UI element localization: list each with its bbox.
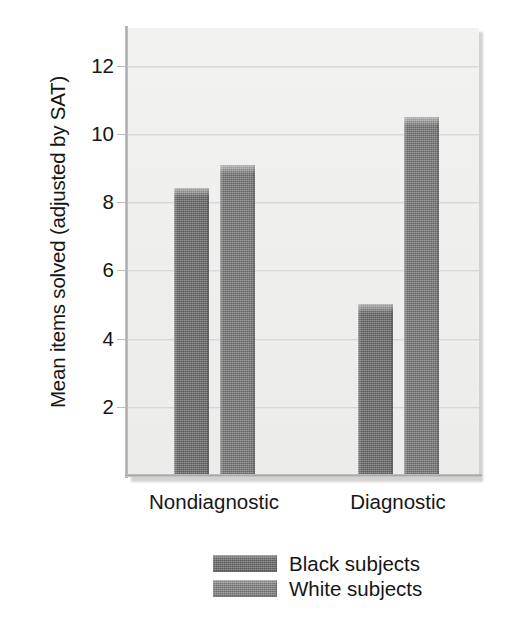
bar-edge-highlight xyxy=(174,188,177,475)
chart-legend: Black subjects White subjects xyxy=(213,551,422,601)
bar-edge-highlight xyxy=(358,304,361,475)
legend-label: Black subjects xyxy=(289,552,420,576)
bar-gloss xyxy=(220,165,255,174)
bar-edge-highlight xyxy=(404,117,407,475)
y-tick-label: 6 xyxy=(80,258,114,282)
legend-item: White subjects xyxy=(213,576,422,601)
bar xyxy=(220,165,255,476)
bar-chart-figure: Mean items solved (adjusted by SAT) 12 1… xyxy=(0,0,509,637)
y-tick-label: 4 xyxy=(80,327,114,351)
y-axis-tick-labels: 12 10 8 6 4 2 xyxy=(78,0,114,637)
x-axis-line xyxy=(125,474,482,477)
plot-area xyxy=(127,28,479,475)
bar-edge-highlight xyxy=(220,165,223,476)
plot-inner xyxy=(127,28,479,475)
legend-label: White subjects xyxy=(289,577,422,601)
y-tick-label: 2 xyxy=(80,395,114,419)
y-tick-label: 10 xyxy=(80,122,114,146)
bar-gloss xyxy=(358,304,393,313)
bar xyxy=(404,117,439,475)
y-axis-title: Mean items solved (adjusted by SAT) xyxy=(46,32,70,452)
bar-gloss xyxy=(174,188,209,197)
x-category-label: Nondiagnostic xyxy=(149,490,279,514)
y-tick-label: 8 xyxy=(80,190,114,214)
gridline xyxy=(127,66,479,67)
y-tick-label: 12 xyxy=(80,54,114,78)
bar-gloss xyxy=(404,117,439,126)
x-category-label: Diagnostic xyxy=(350,490,446,514)
bar xyxy=(358,304,393,475)
legend-swatch-black-subjects xyxy=(213,555,277,572)
y-axis-line xyxy=(125,26,128,478)
bar xyxy=(174,188,209,475)
legend-item: Black subjects xyxy=(213,551,422,576)
legend-swatch-white-subjects xyxy=(213,580,277,597)
